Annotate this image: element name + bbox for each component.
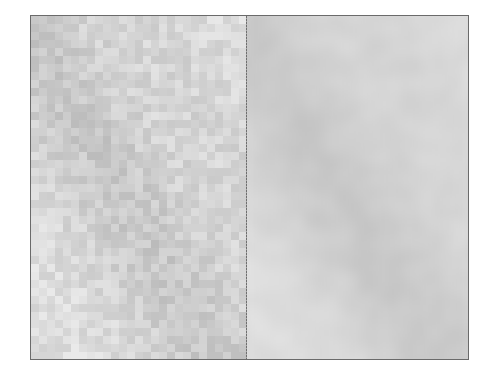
pixelated-texture-image (31, 16, 246, 359)
smooth-texture-panel (247, 16, 468, 359)
comparison-frame (30, 15, 469, 360)
pixelated-texture-panel (31, 16, 246, 359)
smooth-texture-image (247, 16, 468, 359)
